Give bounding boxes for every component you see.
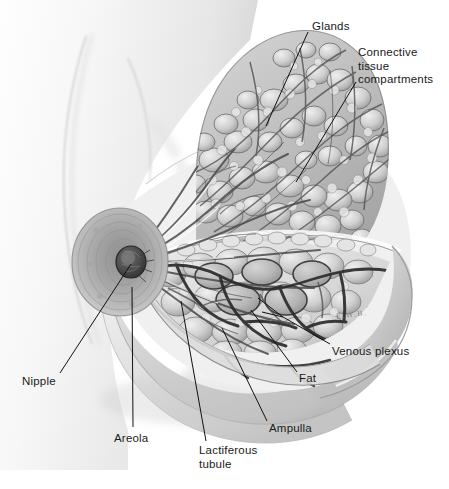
- label-fat: Fat: [299, 372, 316, 386]
- label-ampulla: Ampulla: [269, 422, 312, 436]
- label-glands: Glands: [312, 20, 350, 34]
- label-lactiferous-tubule: Lactiferous tubule: [199, 444, 257, 471]
- label-connective-tissue-compartments: Connective tissue compartments: [358, 46, 433, 87]
- label-nipple: Nipple: [22, 375, 56, 389]
- label-venous-plexus: Venous plexus: [332, 345, 409, 359]
- label-areola: Areola: [114, 432, 148, 446]
- anatomical-figure: Glands Connective tissue compartments Ve…: [0, 0, 449, 489]
